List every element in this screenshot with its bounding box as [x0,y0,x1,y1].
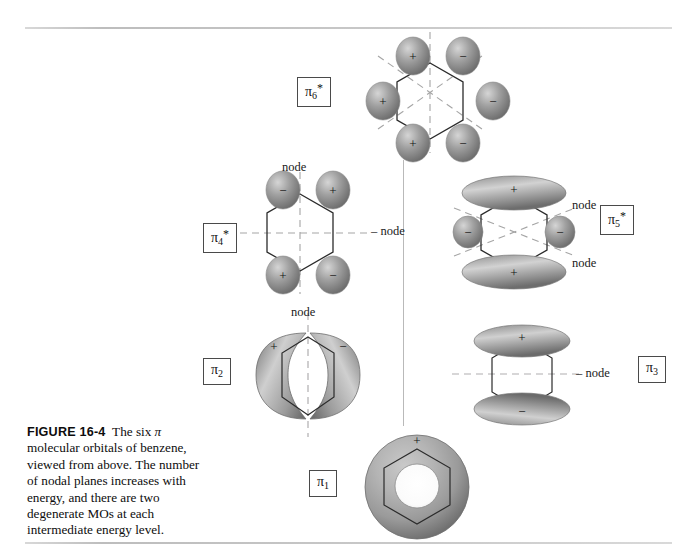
figure-page: + − + − + − π6* [0,0,681,557]
caption-pi-symbol: π [155,424,162,439]
top-divider-rule [25,27,672,29]
svg-text:+: + [409,136,416,151]
pi2-right-lobe [310,333,360,419]
pi4-star-diagram: − + + − [240,178,360,288]
svg-text:−: − [464,225,471,240]
orbital-pi3: + − – node π3 [462,318,582,430]
svg-text:−: − [329,268,336,283]
pi3-diagram: + − [462,318,582,430]
caption-text-part2: molecular orbitals of benzene, viewed fr… [27,440,199,537]
label-pi2: π2 [203,358,231,385]
pi-subscript: 2 [218,368,223,379]
pi-star: * [317,81,323,95]
label-pi3: π3 [638,356,666,383]
pi3-node-label: – node [576,366,610,381]
pi-star: * [620,209,626,223]
svg-text:−: − [459,49,466,64]
pi1-torus-hole [395,464,439,508]
pi1-signs: + [413,433,420,448]
svg-text:−: − [339,339,346,354]
pi2-left-lobe [256,333,306,419]
svg-text:+: + [518,330,525,345]
svg-text:+: + [413,433,420,448]
caption-text-part1: The six [112,424,155,439]
orbital-pi1: + π1 [362,432,472,542]
orbital-pi6-star: + − + − + − π6* [345,30,515,155]
pi5-star-node-label-upper: node [572,198,596,213]
center-vertical-divider [403,160,404,426]
label-pi1: π1 [309,470,337,497]
pi-subscript: 3 [653,366,658,377]
svg-text:+: + [409,49,416,64]
figure-caption: FIGURE 16-4 The six π molecular orbitals… [27,424,207,539]
pi5-star-diagram: + − − + [452,172,577,292]
pi2-node-label: node [291,305,315,320]
orbital-pi4-star: − + + − node – node π4* [240,178,360,288]
label-pi4-star: π4* [203,223,237,253]
svg-text:+: + [510,182,517,197]
pi4-star-node-label-vertical: node [282,160,306,175]
svg-text:+: + [270,339,277,354]
bottom-divider-rule [25,542,672,544]
svg-text:−: − [279,183,286,198]
pi2-diagram: + − [248,325,368,427]
figure-number: FIGURE 16-4 [27,425,105,439]
pi-star: * [223,227,229,241]
pi1-diagram: + [362,432,472,542]
orbital-pi2: + − node π2 [248,325,368,427]
pi-subscript: 1 [324,480,329,491]
svg-text:+: + [329,183,336,198]
label-pi6-star: π6* [297,77,331,107]
label-pi5-star: π5* [600,205,634,235]
svg-text:−: − [459,136,466,151]
pi5-star-node-label-lower: node [572,256,596,271]
svg-text:−: − [489,94,496,109]
svg-text:−: − [518,404,525,419]
orbital-pi5-star: + − − + node node π5* [452,172,577,292]
svg-text:+: + [379,94,386,109]
pi4-star-node-label-horizontal: – node [371,224,405,239]
svg-text:+: + [279,268,286,283]
pi6-star-diagram: + − + − + − [345,30,515,155]
svg-text:+: + [510,265,517,280]
svg-text:−: − [556,225,563,240]
